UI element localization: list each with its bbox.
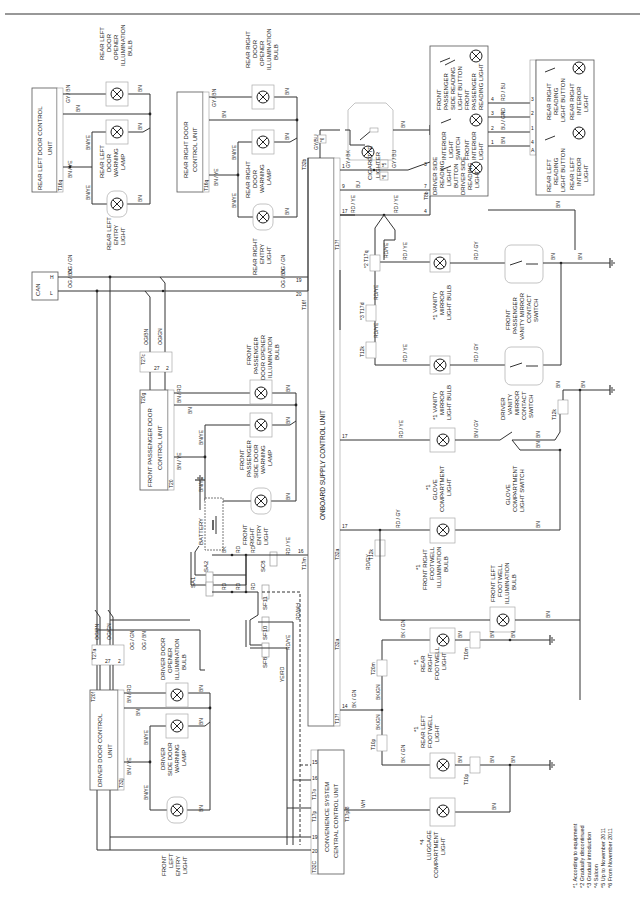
svg-text:LIGHT: LIGHT bbox=[446, 168, 452, 186]
svg-text:4: 4 bbox=[424, 208, 427, 214]
svg-text:READING: READING bbox=[439, 160, 445, 188]
vanity-mirror-light-bulb-left: *1 VANITY MIRROR LIGHT BULB bbox=[430, 356, 452, 420]
footnote-2: *2 Gradually discontinued bbox=[579, 825, 585, 888]
svg-text:RD / YE: RD / YE bbox=[402, 241, 408, 260]
svg-text:OG/BN: OG/BN bbox=[143, 328, 149, 345]
inline-connector-t17q: *2 T17q bbox=[363, 250, 380, 271]
svg-text:WARNING: WARNING bbox=[113, 148, 119, 177]
rear-left-door-control-unit: REAR LEFT DOOR CONTROL UNIT T16q bbox=[32, 88, 63, 192]
svg-text:DRIVER: DRIVER bbox=[160, 747, 166, 770]
svg-text:RD/WH: RD/WH bbox=[295, 603, 301, 620]
svg-text:4: 4 bbox=[491, 96, 494, 102]
svg-text:T32C: T32C bbox=[311, 860, 317, 873]
svg-text:BULB: BULB bbox=[274, 344, 280, 360]
svg-text:ILLUMINATION: ILLUMINATION bbox=[267, 336, 273, 378]
svg-text:BN/YE: BN/YE bbox=[143, 784, 149, 800]
svg-text:T17m: T17m bbox=[301, 557, 307, 570]
svg-text:T20: T20 bbox=[168, 479, 174, 488]
inline-connector-t10m: T10m bbox=[463, 632, 480, 660]
battery: BATTERY bbox=[198, 498, 223, 550]
svg-text:LIGHT: LIGHT bbox=[263, 527, 269, 545]
svg-text:BN: BN bbox=[550, 253, 556, 260]
svg-text:RD / GY: RD / GY bbox=[395, 509, 401, 528]
svg-text:READING: READING bbox=[553, 157, 559, 185]
svg-text:T17f: T17f bbox=[334, 713, 340, 724]
svg-text:BN / YE: BN / YE bbox=[67, 160, 73, 178]
driver-door-opener-bulb: DRIVER DOOR OPENER ILLUMINATION BULB bbox=[160, 637, 188, 707]
svg-text:ILLUMINATION: ILLUMINATION bbox=[174, 638, 180, 680]
svg-text:T20g: T20g bbox=[140, 392, 146, 404]
svg-text:*1: *1 bbox=[415, 564, 421, 570]
svg-text:SIDE READING: SIDE READING bbox=[450, 67, 456, 110]
svg-text:H: H bbox=[50, 274, 54, 280]
svg-text:SA2: SA2 bbox=[203, 560, 209, 572]
svg-text:RD / YE: RD / YE bbox=[393, 194, 399, 213]
svg-text:T32j: T32j bbox=[118, 778, 124, 788]
svg-text:LAMP: LAMP bbox=[120, 154, 126, 170]
svg-text:4: 4 bbox=[531, 139, 534, 145]
svg-text:BN: BN bbox=[577, 253, 583, 260]
svg-text:ILLUMINATION: ILLUMINATION bbox=[504, 562, 510, 604]
svg-text:COMPARTMENT: COMPARTMENT bbox=[433, 831, 439, 878]
svg-text:BN / YE: BN / YE bbox=[213, 168, 219, 186]
svg-text:T10p: T10p bbox=[463, 773, 469, 785]
svg-text:OG / BN: OG / BN bbox=[280, 269, 286, 288]
svg-text:YE/RD: YE/RD bbox=[279, 666, 285, 682]
svg-text:SWITCH: SWITCH bbox=[533, 298, 539, 322]
svg-text:OG / BN: OG / BN bbox=[67, 269, 73, 288]
front-right-footwell-illumination-bulb: *1 FRONT RIGHT FOOTWELL ILLUMINATION BUL… bbox=[415, 518, 455, 590]
svg-text:LIGHT: LIGHT bbox=[446, 478, 452, 496]
svg-text:T10p: T10p bbox=[370, 738, 376, 750]
svg-text:T8b: T8b bbox=[423, 191, 429, 200]
svg-text:BN: BN bbox=[198, 805, 204, 812]
svg-text:SIDE DOOR: SIDE DOOR bbox=[167, 742, 173, 776]
svg-text:BN: BN bbox=[75, 105, 81, 112]
svg-text:BN: BN bbox=[285, 417, 291, 424]
svg-text:RD: RD bbox=[221, 582, 227, 590]
svg-text:*2 T17q: *2 T17q bbox=[363, 250, 369, 268]
svg-text:FRONT PASSENGER DOOR: FRONT PASSENGER DOOR bbox=[147, 408, 153, 487]
svg-text:RD/YE: RD/YE bbox=[383, 242, 389, 258]
svg-text:T16q: T16q bbox=[57, 179, 63, 191]
front-passenger-vanity-mirror-contact-switch: FRONT PASSENGER VANITY MIRROR CONTACT SW… bbox=[505, 245, 543, 340]
svg-text:BN: BN bbox=[198, 685, 204, 692]
svg-text:SWITCH: SWITCH bbox=[455, 136, 461, 160]
svg-text:3: 3 bbox=[531, 96, 534, 102]
svg-text:RD / YE: RD / YE bbox=[350, 194, 356, 213]
svg-text:OG/BN: OG/BN bbox=[94, 623, 100, 640]
svg-text:15: 15 bbox=[312, 759, 318, 765]
svg-text:ILLUMINATION: ILLUMINATION bbox=[436, 546, 442, 588]
svg-text:DOOR: DOOR bbox=[106, 33, 112, 52]
svg-text:LUGGAGE: LUGGAGE bbox=[426, 830, 432, 860]
svg-text:7: 7 bbox=[424, 183, 427, 189]
svg-text:FRONT: FRONT bbox=[246, 344, 252, 365]
svg-text:RD: RD bbox=[250, 582, 256, 590]
svg-text:BN/YE: BN/YE bbox=[85, 184, 91, 200]
svg-text:REAR RIGHT: REAR RIGHT bbox=[245, 161, 251, 198]
svg-text:T17f: T17f bbox=[334, 239, 340, 250]
svg-text:OG/GN: OG/GN bbox=[157, 328, 163, 345]
svg-text:2: 2 bbox=[118, 658, 121, 664]
svg-text:REAR RIGHT DOOR: REAR RIGHT DOOR bbox=[183, 121, 189, 178]
svg-text:UNIT: UNIT bbox=[107, 744, 113, 758]
svg-text:FRONT: FRONT bbox=[242, 524, 248, 545]
svg-text:REAR LEFT: REAR LEFT bbox=[546, 159, 552, 192]
svg-text:BULB: BULB bbox=[511, 574, 517, 590]
svg-text:BN/YE: BN/YE bbox=[85, 134, 91, 150]
inline-connector-t27c: T27c 27 2 bbox=[140, 352, 172, 372]
svg-text:CAN: CAN bbox=[35, 283, 41, 296]
svg-text:LAMP: LAMP bbox=[267, 450, 273, 466]
svg-text:RD: RD bbox=[250, 545, 256, 553]
svg-text:BN/YE: BN/YE bbox=[143, 729, 149, 745]
footnote-6: *6 From November 2011 bbox=[607, 828, 613, 888]
svg-text:LAMP: LAMP bbox=[181, 750, 187, 766]
svg-text:REAR RIGHT: REAR RIGHT bbox=[569, 83, 575, 120]
svg-text:OG/GN: OG/GN bbox=[106, 623, 112, 640]
svg-text:LAMP: LAMP bbox=[266, 169, 272, 185]
driver-door-control-unit: DRIVER DOOR CONTROL UNIT T20f T32j bbox=[90, 690, 124, 790]
driver-side-door-warning-lamp: DRIVER SIDE DOOR WARNING LAMP bbox=[160, 714, 188, 776]
svg-text:READING: READING bbox=[553, 87, 559, 115]
svg-text:FOOTWELL: FOOTWELL bbox=[427, 714, 433, 748]
svg-text:ENTRY: ENTRY bbox=[256, 525, 262, 545]
svg-text:BN/YE: BN/YE bbox=[231, 192, 237, 208]
